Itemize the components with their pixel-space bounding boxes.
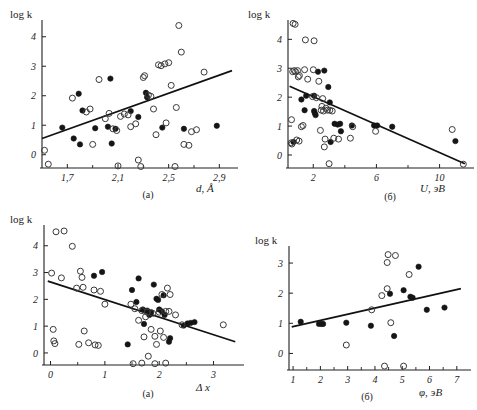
data-point-open: [343, 342, 349, 348]
data-point-open: [385, 252, 391, 258]
x-tick-label: 2,1: [112, 172, 125, 183]
data-point-open: [148, 326, 154, 332]
data-point-open: [392, 253, 398, 259]
data-point-open: [166, 60, 172, 66]
data-point-open: [161, 334, 167, 340]
regression-line: [42, 71, 232, 139]
panel-caption: (а): [142, 189, 153, 201]
data-point-filled: [214, 123, 219, 128]
data-point-open: [300, 123, 306, 129]
data-point-filled: [136, 276, 141, 281]
data-point-open: [163, 120, 169, 126]
data-point-open: [77, 268, 83, 274]
data-point-open: [142, 73, 148, 79]
data-point-open: [310, 67, 316, 73]
y-axis-label: log k: [10, 213, 33, 225]
data-point-open: [53, 229, 59, 235]
panel-a-bottom-plot: 012340123log kΔ x(а): [0, 205, 250, 410]
data-point-filled: [302, 108, 307, 113]
data-point-filled: [368, 323, 373, 328]
data-point-filled: [313, 112, 318, 117]
data-point-open: [90, 141, 96, 147]
y-tick-label: 4: [33, 240, 38, 251]
data-point-open: [91, 287, 97, 293]
data-point-open: [80, 284, 86, 290]
data-point-open: [201, 69, 207, 75]
data-point-open: [449, 127, 455, 133]
data-point-open: [305, 76, 311, 82]
data-point-open: [164, 285, 170, 291]
data-point-open: [81, 328, 87, 334]
data-point-open: [76, 341, 82, 347]
data-point-filled: [93, 126, 98, 131]
data-point-open: [173, 312, 179, 318]
y-tick-label: 1: [31, 120, 36, 131]
x-tick-label: 3: [210, 369, 216, 380]
data-point-open: [102, 301, 108, 307]
x-tick-label: 7: [454, 374, 460, 385]
panel-b-top-plot: 012342610log kU, эВ(б): [240, 0, 477, 205]
regression-line: [292, 289, 461, 327]
data-point-open: [289, 117, 295, 123]
x-axis-label: Δ x: [195, 381, 210, 393]
data-point-open: [172, 164, 178, 170]
x-tick-label: 2: [157, 369, 162, 380]
panel-b-bottom-plot: 01231234567log kφ, эВ(б): [247, 228, 477, 410]
data-point-open: [96, 77, 102, 83]
data-point-filled: [337, 121, 342, 126]
data-point-filled: [453, 138, 458, 143]
x-tick-label: 0: [48, 369, 53, 380]
data-point-open: [384, 260, 390, 266]
data-point-open: [322, 136, 328, 142]
data-point-filled: [424, 307, 429, 312]
data-point-open: [326, 161, 332, 167]
data-point-open: [302, 37, 308, 43]
data-point-filled: [327, 100, 332, 105]
y-tick-label: 0: [277, 150, 282, 161]
y-tick-label: 3: [276, 63, 282, 74]
data-point-open: [133, 121, 139, 127]
data-point-open: [157, 328, 163, 334]
data-point-filled: [401, 288, 406, 293]
x-tick-label: 6: [427, 374, 432, 385]
y-tick-label: 2: [31, 90, 36, 101]
data-point-filled: [344, 320, 349, 325]
data-point-filled: [151, 282, 156, 287]
data-point-filled: [416, 264, 421, 269]
data-point-open: [168, 82, 174, 88]
panel-b-top: 012342610log kU, эВ(б): [240, 0, 477, 205]
y-tick-label: 2: [33, 294, 38, 305]
data-point-open: [162, 61, 168, 67]
data-point-open: [141, 334, 147, 340]
y-tick-label: 4: [31, 31, 36, 42]
data-point-filled: [91, 273, 96, 278]
data-point-open: [382, 363, 388, 369]
data-point-open: [58, 275, 64, 281]
data-point-open: [176, 23, 182, 29]
data-point-filled: [60, 125, 65, 130]
data-point-filled: [141, 321, 146, 326]
data-point-filled: [109, 141, 114, 146]
data-point-filled: [304, 93, 309, 98]
data-point-filled: [326, 84, 331, 89]
data-point-filled: [108, 76, 113, 81]
data-point-filled: [410, 295, 415, 300]
data-point-open: [136, 317, 142, 323]
data-point-open: [388, 320, 394, 326]
panel-caption: (а): [142, 388, 153, 400]
data-point-open: [401, 363, 407, 369]
x-tick-label: 2: [318, 374, 323, 385]
data-point-open: [406, 272, 412, 278]
data-point-filled: [136, 114, 141, 119]
data-point-filled: [76, 91, 81, 96]
data-point-filled: [80, 108, 85, 113]
data-point-filled: [298, 319, 303, 324]
y-tick-label: 2: [277, 92, 282, 103]
x-tick-label: 6: [374, 172, 379, 183]
x-axis-label: d, Å: [196, 182, 214, 194]
data-point-open: [154, 341, 160, 347]
y-tick-label: 0: [33, 348, 38, 359]
data-point-open: [317, 127, 323, 133]
y-tick-label: 0: [278, 348, 283, 359]
data-point-open: [152, 333, 158, 339]
